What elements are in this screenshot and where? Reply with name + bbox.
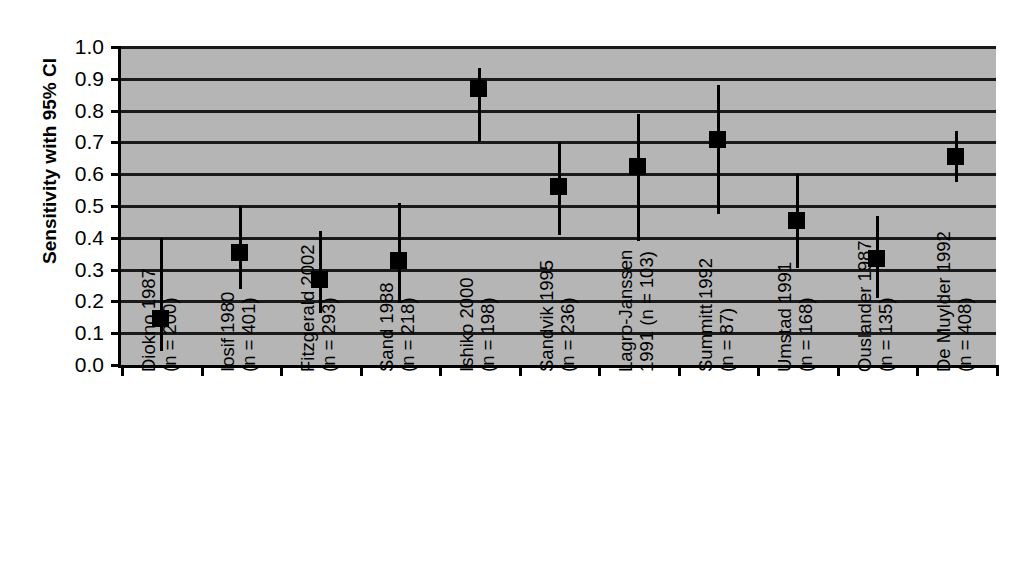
y-tick-label: 0.5 bbox=[48, 195, 104, 216]
x-tick-mark bbox=[360, 365, 363, 376]
data-point-marker bbox=[709, 131, 726, 148]
y-tick-mark bbox=[111, 141, 121, 144]
x-tick-mark bbox=[996, 365, 999, 376]
y-tick-label: 0.4 bbox=[48, 227, 104, 248]
y-tick-label: 0.2 bbox=[48, 290, 104, 311]
x-tick-mark bbox=[678, 365, 681, 376]
x-tick-mark bbox=[201, 365, 204, 376]
x-tick-label: Ouslander 1987 (n = 135) bbox=[854, 172, 896, 372]
x-tick-label: Fitzgerald 2002 (n = 293) bbox=[297, 172, 339, 372]
x-tick-mark bbox=[757, 365, 760, 376]
y-tick-mark bbox=[111, 237, 121, 240]
x-tick-label: De Muylder 1992 (n = 408) bbox=[933, 172, 975, 372]
gridline bbox=[121, 46, 996, 49]
y-tick-label: 0.9 bbox=[48, 68, 104, 89]
y-tick-label: 0.7 bbox=[48, 131, 104, 152]
x-tick-label: Iosif 1980 (n = 401) bbox=[217, 172, 259, 372]
x-tick-mark bbox=[121, 365, 124, 376]
data-point-marker bbox=[470, 80, 487, 97]
x-tick-mark bbox=[519, 365, 522, 376]
y-tick-label: 0.3 bbox=[48, 259, 104, 280]
forest-plot-chart: Sensitivity with 95% CI 1.00.90.80.70.60… bbox=[0, 0, 1021, 587]
y-tick-mark bbox=[111, 173, 121, 176]
x-tick-label: Ishiko 2000 (n = 198) bbox=[456, 172, 498, 372]
x-tick-label: Lagro-Janssen 1991 (n = 103) bbox=[615, 172, 657, 372]
y-tick-mark bbox=[111, 269, 121, 272]
x-tick-label: Umstad 1991 (n = 168) bbox=[774, 172, 816, 372]
y-tick-label: 0.6 bbox=[48, 163, 104, 184]
x-tick-mark bbox=[837, 365, 840, 376]
y-tick-label: 0.1 bbox=[48, 322, 104, 343]
x-tick-label: Sandvik 1995 (n = 236) bbox=[536, 172, 578, 372]
y-tick-mark bbox=[111, 78, 121, 81]
data-point-marker bbox=[947, 148, 964, 165]
gridline bbox=[121, 78, 996, 81]
x-tick-label: Summitt 1992 (n = 87) bbox=[695, 172, 737, 372]
y-tick-mark bbox=[111, 332, 121, 335]
x-tick-mark bbox=[916, 365, 919, 376]
gridline bbox=[121, 110, 996, 113]
y-tick-mark bbox=[111, 205, 121, 208]
x-tick-label: Sand 1988 (n = 218) bbox=[376, 172, 418, 372]
y-tick-label: 1.0 bbox=[48, 36, 104, 57]
y-tick-mark bbox=[111, 364, 121, 367]
y-tick-label: 0.0 bbox=[48, 354, 104, 375]
x-tick-mark bbox=[439, 365, 442, 376]
x-tick-mark bbox=[598, 365, 601, 376]
y-tick-label: 0.8 bbox=[48, 100, 104, 121]
x-tick-label: Diokno 1987 (n = 200) bbox=[138, 172, 180, 372]
y-tick-mark bbox=[111, 300, 121, 303]
x-tick-mark bbox=[280, 365, 283, 376]
y-tick-mark bbox=[111, 110, 121, 113]
y-tick-mark bbox=[111, 46, 121, 49]
